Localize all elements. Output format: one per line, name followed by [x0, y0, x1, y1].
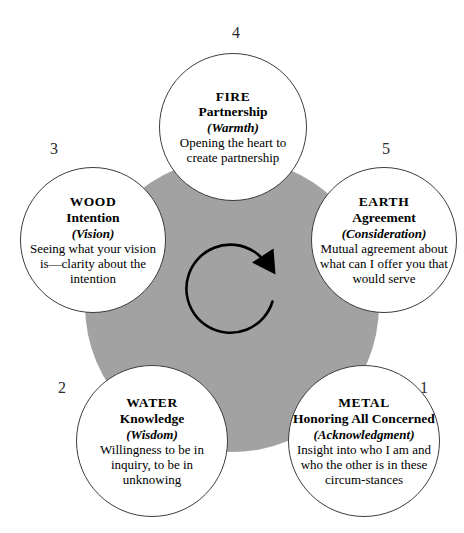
node-earth-aspect: Agreement [352, 210, 415, 226]
node-fire-quality: (Warmth) [207, 120, 259, 135]
node-metal-quality: (Acknowledgment) [313, 427, 414, 442]
node-water-aspect: Knowledge [120, 411, 185, 427]
step-number-water: 2 [52, 379, 72, 397]
step-number-earth: 5 [376, 140, 396, 158]
node-fire-description: Opening the heart to create partnership [160, 135, 306, 165]
node-earth[interactable]: EARTH Agreement (Consideration) Mutual a… [311, 167, 457, 313]
node-wood[interactable]: WOOD Intention (Vision) Seeing what your… [20, 167, 166, 313]
node-water[interactable]: WATER Knowledge (Wisdom) Willingness to … [76, 365, 228, 517]
node-earth-element: EARTH [359, 194, 410, 210]
five-element-cycle-diagram: FIRE Partnership (Warmth) Opening the he… [0, 0, 464, 533]
clockwise-cycle-arrow [178, 229, 290, 341]
node-water-quality: (Wisdom) [126, 427, 178, 442]
node-fire-aspect: Partnership [199, 104, 268, 120]
node-wood-quality: (Vision) [72, 226, 115, 241]
node-water-description: Willingness to be in inquiry, to be in u… [77, 442, 227, 487]
node-wood-aspect: Intention [66, 210, 119, 226]
step-number-metal: 1 [414, 379, 434, 397]
node-metal-element: METAL [338, 395, 390, 411]
node-fire[interactable]: FIRE Partnership (Warmth) Opening the he… [159, 53, 307, 201]
node-metal-description: Insight into who I am and who the other … [289, 442, 439, 487]
node-water-element: WATER [126, 395, 178, 411]
node-wood-description: Seeing what your vision is—clarity about… [21, 241, 165, 286]
node-earth-description: Mutual agreement about what can I offer … [312, 241, 456, 286]
node-earth-quality: (Consideration) [342, 226, 427, 241]
node-metal-aspect: Honoring All Concerned [293, 411, 435, 427]
node-wood-element: WOOD [70, 194, 117, 210]
step-number-wood: 3 [44, 140, 64, 158]
node-fire-element: FIRE [216, 89, 251, 105]
step-number-fire: 4 [226, 24, 246, 42]
